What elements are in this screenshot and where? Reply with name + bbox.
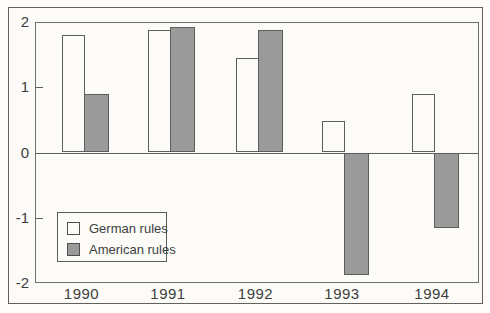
bar-german-1991 bbox=[148, 30, 171, 152]
legend-label: American rules bbox=[89, 243, 176, 257]
legend: German rulesAmerican rules bbox=[57, 212, 167, 262]
y-axis-tick-label: 0 bbox=[9, 145, 29, 161]
x-axis-tick-label: 1990 bbox=[50, 286, 114, 302]
legend-item-german-rules: German rules bbox=[67, 219, 166, 238]
x-axis-tick-label: 1992 bbox=[224, 286, 288, 302]
bar-german-1993 bbox=[322, 121, 345, 152]
zero-axis-line bbox=[36, 153, 478, 154]
y-axis-tick-mark bbox=[36, 87, 43, 88]
bar-american-1993 bbox=[344, 153, 369, 276]
bar-german-1994 bbox=[412, 94, 435, 153]
bar-german-1990 bbox=[62, 35, 85, 152]
legend-swatch bbox=[67, 243, 80, 256]
bar-american-1992 bbox=[258, 30, 283, 152]
scanned-page: German rulesAmerican rules 210-1-2199019… bbox=[0, 0, 490, 313]
bar-german-1992 bbox=[236, 58, 259, 153]
y-axis-tick-label: -1 bbox=[9, 210, 29, 226]
legend-label: German rules bbox=[89, 222, 168, 236]
y-axis-tick-label: -2 bbox=[9, 275, 29, 291]
plot-area: German rulesAmerican rules bbox=[35, 22, 479, 283]
x-axis-tick-label: 1991 bbox=[136, 286, 200, 302]
bar-american-1991 bbox=[170, 27, 195, 152]
legend-swatch bbox=[67, 222, 80, 235]
y-axis-tick-label: 1 bbox=[9, 79, 29, 95]
x-axis-tick-label: 1994 bbox=[400, 286, 464, 302]
legend-item-american-rules: American rules bbox=[67, 240, 166, 259]
y-axis-tick-mark bbox=[36, 218, 43, 219]
y-axis-tick-label: 2 bbox=[9, 14, 29, 30]
bar-american-1994 bbox=[434, 153, 459, 228]
x-axis-tick-label: 1993 bbox=[310, 286, 374, 302]
bar-american-1990 bbox=[84, 94, 109, 153]
chart-figure: German rulesAmerican rules 210-1-2199019… bbox=[8, 7, 483, 304]
